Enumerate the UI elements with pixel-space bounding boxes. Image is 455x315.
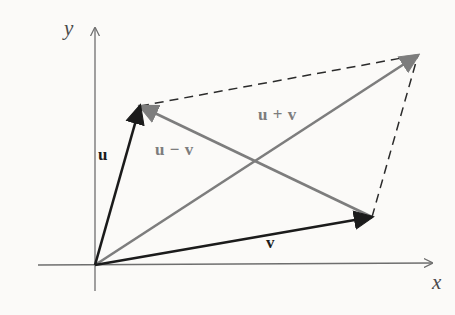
- vector-label-u-minus-v: u − v: [155, 141, 194, 158]
- vector-diagram-figure: y x u v u + v u − v: [0, 0, 455, 315]
- vector-diagram-svg: [0, 0, 455, 315]
- vector-v: [95, 217, 372, 265]
- vector-label-u: u: [98, 146, 107, 163]
- x-axis-label: x: [432, 272, 441, 293]
- dashed-edge-u-to-sum: [140, 55, 418, 106]
- vector-label-v: v: [266, 234, 275, 251]
- y-axis-label: y: [64, 18, 73, 39]
- vector-u-minus-v: [140, 106, 372, 217]
- vector-label-u-plus-v: u + v: [258, 106, 297, 123]
- vector-u-plus-v: [95, 55, 418, 265]
